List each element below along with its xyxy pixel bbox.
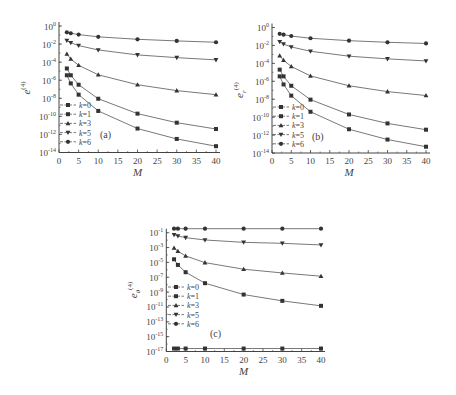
figure: 051015202530354010010-210-410-610-810-10…: [0, 0, 456, 395]
legend-item: k=6: [168, 320, 199, 329]
data-point: [277, 40, 282, 44]
x-tick-label: 0: [57, 156, 62, 166]
x-tick-label: 40: [212, 156, 222, 166]
panel-label: (b): [312, 131, 324, 143]
series-k-5: [64, 39, 218, 63]
legend-label: k=1: [187, 292, 199, 301]
data-point: [135, 37, 139, 41]
data-point: [65, 66, 69, 70]
legend-item: k=1: [168, 292, 199, 301]
y-tick-label: 10-4: [255, 58, 269, 69]
data-point: [424, 41, 428, 45]
series-k-6: [172, 227, 323, 231]
x-tick-label: 40: [422, 156, 432, 166]
legend-item: k=3: [60, 119, 91, 128]
data-point: [77, 32, 81, 36]
y-tick-label: 10-8: [42, 93, 56, 104]
data-point: [281, 33, 285, 37]
data-point: [203, 347, 207, 351]
y-tick-label: 10-10: [39, 111, 56, 122]
data-point: [278, 32, 282, 36]
data-point: [347, 127, 351, 131]
legend-label: k=6: [79, 138, 91, 147]
data-point: [280, 299, 284, 303]
data-point: [424, 128, 428, 132]
y-tick-label: 10-6: [42, 75, 56, 86]
data-point: [319, 347, 323, 351]
data-point: [278, 68, 282, 72]
legend-marker: [174, 285, 178, 289]
data-point: [347, 39, 351, 43]
data-point: [69, 81, 73, 85]
x-tick-label: 10: [306, 156, 316, 166]
y-tick-label: 10-8: [255, 94, 269, 105]
legend: k=0k=1k=3k=5k=6: [60, 101, 91, 147]
legend-item: k=0: [168, 283, 199, 292]
y-tick-label: 100: [257, 22, 269, 33]
x-tick-label: 10: [200, 355, 210, 365]
data-point: [96, 72, 101, 76]
legend-item: k=5: [60, 129, 91, 138]
data-point: [172, 227, 176, 231]
x-tick-label: 35: [192, 156, 202, 166]
data-point: [319, 304, 323, 308]
data-point: [136, 127, 140, 131]
y-axis-label: er(4): [232, 81, 248, 97]
data-point: [214, 127, 218, 131]
legend-label: k=0: [292, 103, 304, 112]
data-point: [280, 347, 284, 351]
chart-panel-b: 051015202530354010010-210-410-610-810-10…: [232, 22, 431, 178]
data-point: [308, 36, 312, 40]
data-point: [309, 110, 313, 114]
legend-marker: [174, 322, 178, 326]
data-point: [242, 227, 246, 231]
y-tick-label: 10-14: [39, 147, 56, 158]
x-tick-label: 25: [364, 156, 374, 166]
legend-label: k=5: [79, 129, 91, 138]
legend-label: k=6: [292, 140, 304, 149]
y-tick-label: 10-14: [252, 148, 269, 159]
x-axis-label: M: [343, 166, 354, 178]
data-point: [280, 227, 284, 231]
x-tick-label: 15: [220, 355, 230, 365]
y-tick-label: 10-3: [149, 242, 163, 253]
data-point: [184, 270, 188, 274]
legend-marker: [66, 103, 70, 107]
legend-label: k=3: [79, 119, 91, 128]
legend-marker: [66, 112, 70, 116]
legend-label: k=0: [79, 101, 91, 110]
x-tick-label: 40: [317, 355, 327, 365]
legend-label: k=5: [187, 311, 199, 320]
data-point: [289, 34, 293, 38]
x-tick-label: 0: [270, 156, 275, 166]
data-point: [424, 59, 429, 63]
legend-label: k=5: [292, 131, 304, 140]
y-tick-label: 10-12: [39, 129, 56, 140]
y-tick-label: 10-4: [42, 57, 56, 68]
data-point: [386, 138, 390, 142]
data-point: [96, 109, 100, 113]
data-point: [214, 58, 219, 62]
x-tick-label: 35: [297, 355, 307, 365]
data-point: [282, 82, 286, 86]
data-point: [308, 73, 313, 77]
data-point: [176, 263, 180, 267]
data-point: [77, 93, 81, 97]
legend-item: k=1: [60, 110, 91, 119]
data-point: [203, 281, 207, 285]
data-point: [65, 30, 69, 34]
legend-label: k=0: [187, 283, 199, 292]
data-point: [242, 347, 246, 351]
legend-marker: [279, 114, 283, 118]
x-tick-label: 10: [94, 156, 104, 166]
data-point: [176, 347, 180, 351]
legend-label: k=1: [292, 112, 304, 121]
y-tick-label: 10-9: [149, 287, 163, 298]
data-point: [309, 98, 313, 102]
y-tick-label: 100: [44, 21, 56, 32]
data-point: [64, 52, 69, 56]
data-point: [175, 39, 179, 43]
x-tick-label: 5: [183, 355, 188, 365]
x-tick-label: 30: [278, 355, 288, 365]
x-tick-label: 25: [258, 355, 268, 365]
